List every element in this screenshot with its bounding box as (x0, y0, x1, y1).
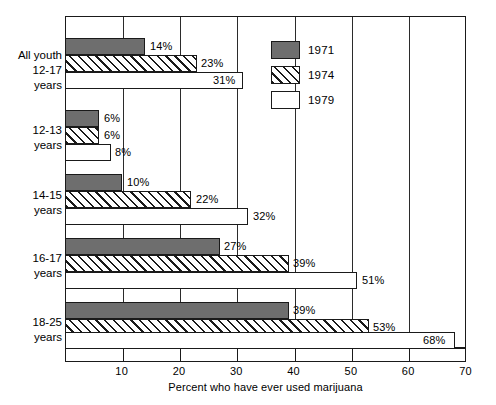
bar-16-17-1974 (65, 255, 289, 272)
legend-swatch-1979-icon (271, 91, 300, 109)
bar-18-25-1971 (65, 302, 289, 319)
bar-allyouth-1974 (65, 55, 197, 72)
x-axis-label-20: 20 (159, 365, 199, 378)
legend-swatch-1971-icon (271, 41, 300, 59)
category-label-12-13: 12-13 years (33, 123, 62, 153)
bar-value-16-17-1971: 27% (224, 238, 246, 255)
legend-item-1971: 1971 (271, 37, 334, 62)
bar-12-13-1974 (65, 127, 99, 144)
legend-item-1979: 1979 (271, 87, 334, 112)
bar-value-allyouth-1974: 23% (201, 55, 223, 72)
bar-allyouth-1971 (65, 38, 145, 55)
bar-value-18-25-1971: 39% (293, 302, 315, 319)
bar-12-13-1971 (65, 110, 99, 127)
legend: 1971 1974 1979 (271, 37, 334, 112)
bar-value-12-13-1979: 8% (115, 144, 131, 161)
x-axis-label-60: 60 (388, 365, 428, 378)
bar-value-14-15-1974: 22% (196, 191, 218, 208)
bar-value-allyouth-1979: 31% (213, 72, 235, 89)
x-axis-band (65, 348, 466, 362)
gridline-30 (237, 17, 238, 347)
x-axis-label-50: 50 (331, 365, 371, 378)
x-axis-tick-40 (295, 349, 296, 361)
bar-value-allyouth-1971: 14% (150, 38, 172, 55)
bar-16-17-1979 (65, 272, 357, 289)
legend-label-1971: 1971 (308, 44, 334, 56)
bar-value-12-13-1971: 6% (104, 110, 120, 127)
x-axis-tick-50 (352, 349, 353, 361)
horizontal-bar-chart: All youth 12-17 years 12-13 years 14-15 … (0, 0, 496, 405)
x-axis-title: Percent who have ever used marijuana (65, 381, 466, 393)
category-label-18-25: 18-25 years (33, 315, 62, 345)
x-axis-tick-60 (409, 349, 410, 361)
gridline-60 (409, 17, 410, 347)
x-axis-label-10: 10 (102, 365, 142, 378)
legend-swatch-1974-icon (271, 66, 300, 84)
gridline-50 (352, 17, 353, 347)
legend-label-1974: 1974 (308, 69, 334, 81)
x-axis-tick-20 (180, 349, 181, 361)
bar-14-15-1974 (65, 191, 191, 208)
bar-18-25-1979 (65, 332, 455, 349)
x-axis-label-30: 30 (216, 365, 256, 378)
bar-value-16-17-1979: 51% (362, 272, 384, 289)
bar-value-12-13-1974: 6% (104, 127, 120, 144)
bar-12-13-1979 (65, 144, 111, 161)
x-axis-tick-10 (123, 349, 124, 361)
bar-14-15-1979 (65, 208, 248, 225)
bar-16-17-1971 (65, 238, 220, 255)
bar-value-14-15-1971: 10% (127, 174, 149, 191)
category-label-16-17: 16-17 years (33, 251, 62, 281)
bar-value-18-25-1979: 68% (423, 332, 445, 349)
x-axis-tick-30 (237, 349, 238, 361)
legend-item-1974: 1974 (271, 62, 334, 87)
bar-value-14-15-1979: 32% (253, 208, 275, 225)
bar-value-16-17-1974: 39% (293, 255, 315, 272)
bar-14-15-1971 (65, 174, 122, 191)
legend-label-1979: 1979 (308, 94, 334, 106)
category-label-all-youth: All youth 12-17 years (18, 48, 62, 93)
category-label-14-15: 14-15 years (33, 188, 62, 218)
x-axis-label-40: 40 (274, 365, 314, 378)
x-axis-label-70: 70 (446, 365, 486, 378)
